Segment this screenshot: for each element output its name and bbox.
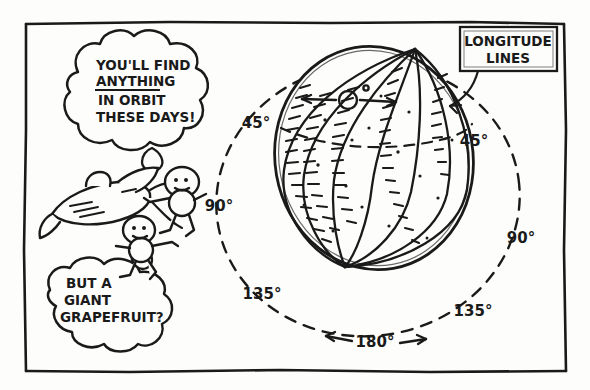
angle-label-45-left: 45° <box>242 114 270 132</box>
angle-label-180-bottom: 180° <box>356 333 395 351</box>
callout-label-line-2: LINES <box>486 50 530 66</box>
angle-label-135-right: 135° <box>454 302 493 320</box>
angle-label-90-left: 90° <box>205 197 233 215</box>
cartoon-artwork: LONGITUDE LINES 45° 90° 135° 180° 135° 9… <box>0 0 590 390</box>
upper-bubble-line-2: ANYTHING <box>96 73 175 89</box>
angle-label-135-left: 135° <box>243 285 282 303</box>
upper-bubble-line-1: YOU'LL FIND <box>95 57 191 73</box>
astronaut-lower-body <box>129 238 153 262</box>
upper-bubble-line-4: THESE DAYS! <box>96 109 195 125</box>
astronaut-upper-body <box>169 190 195 216</box>
lower-bubble-line-1: BUT A <box>66 275 112 291</box>
lower-bubble-line-3: GRAPEFRUIT? <box>60 309 164 325</box>
angle-label-45-right: 45° <box>460 132 488 150</box>
callout-label-line-1: LONGITUDE <box>464 33 552 49</box>
angle-label-90-right: 90° <box>507 229 535 247</box>
cartoon-panel: LONGITUDE LINES 45° 90° 135° 180° 135° 9… <box>0 0 590 390</box>
upper-bubble-line-3: IN ORBIT <box>98 92 166 108</box>
lower-bubble-line-2: GIANT <box>64 292 112 308</box>
